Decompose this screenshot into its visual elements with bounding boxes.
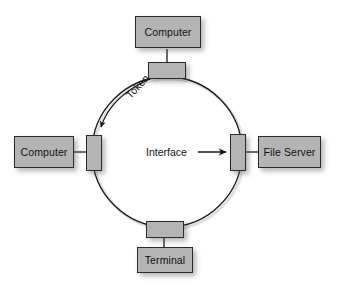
node-computer-left[interactable]: Computer <box>14 136 74 168</box>
node-computer-top[interactable]: Computer <box>135 16 201 48</box>
node-label-terminal: Terminal <box>145 255 185 266</box>
interface-box-left[interactable] <box>86 135 102 171</box>
node-label-computer-left: Computer <box>21 147 68 158</box>
interface-label: Interface <box>146 147 187 158</box>
node-label-file-server: File Server <box>264 147 316 158</box>
token-ring-diagram: Computer Computer File Server Terminal T… <box>0 0 337 292</box>
node-terminal[interactable]: Terminal <box>137 247 193 273</box>
node-label-computer-top: Computer <box>145 27 192 38</box>
node-file-server[interactable]: File Server <box>258 136 321 168</box>
interface-box-bottom[interactable] <box>146 221 184 238</box>
interface-box-right[interactable] <box>230 134 246 171</box>
interface-box-top[interactable] <box>148 62 186 79</box>
